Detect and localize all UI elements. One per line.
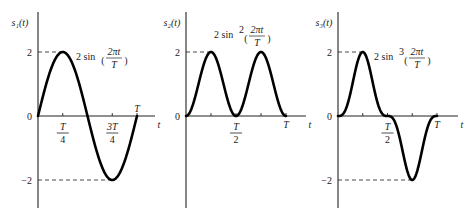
formula-annotation: 2 sin2(2πtT) bbox=[214, 24, 271, 48]
y-tick-label: 2 bbox=[27, 47, 32, 58]
x-tick-label: T bbox=[434, 119, 441, 130]
x-tick-label-numerator: 3T bbox=[106, 121, 119, 132]
formula-paren-right: ) bbox=[124, 55, 127, 67]
y-axis-label: s₂(t) bbox=[164, 17, 181, 29]
formula-paren-left: ( bbox=[244, 33, 248, 45]
y-tick-label: 0 bbox=[175, 111, 180, 122]
formula-paren-left: ( bbox=[404, 55, 408, 67]
formula-denominator: T bbox=[111, 59, 118, 70]
panel-s3: s₃(t)t20−2T2T2 sin3(2πtT) bbox=[316, 12, 464, 208]
x-axis-label: t bbox=[461, 119, 464, 130]
formula-numerator: 2πt bbox=[411, 46, 424, 57]
formula-annotation: 2 sin3(2πtT) bbox=[374, 46, 431, 70]
panel-s2: s₂(t)t20T2T2 sin2(2πtT) bbox=[164, 12, 312, 208]
formula-paren-right: ) bbox=[267, 33, 270, 45]
panel-s1: s₁(t)t20−2T43T4T2 sin(2πtT) bbox=[12, 12, 161, 208]
x-tick-label-denominator: 4 bbox=[110, 134, 115, 145]
x-tick-label: T bbox=[134, 103, 141, 114]
formula-annotation: 2 sin(2πtT) bbox=[76, 46, 128, 70]
x-tick-label-numerator: T bbox=[233, 121, 240, 132]
formula-numerator: 2πt bbox=[108, 46, 121, 57]
formula-paren-right: ) bbox=[427, 55, 430, 67]
x-tick-label-numerator: T bbox=[60, 121, 67, 132]
formula-power: 2 bbox=[239, 24, 244, 35]
formula-denominator: T bbox=[414, 59, 421, 70]
formula-prefix: 2 sin bbox=[374, 51, 393, 62]
series-line-s2 bbox=[186, 52, 286, 116]
formula-power: 3 bbox=[399, 46, 404, 57]
x-axis-label: t bbox=[309, 119, 312, 130]
y-tick-label: −2 bbox=[321, 175, 332, 186]
x-tick-label-numerator: T bbox=[385, 121, 392, 132]
waveform-charts: s₁(t)t20−2T43T4T2 sin(2πtT)s₂(t)t20T2T2 … bbox=[0, 0, 474, 218]
formula-prefix: 2 sin bbox=[76, 51, 95, 62]
formula-denominator: T bbox=[254, 37, 261, 48]
y-axis-label: s₃(t) bbox=[316, 17, 333, 29]
x-tick-label-denominator: 2 bbox=[234, 134, 239, 145]
formula-numerator: 2πt bbox=[251, 24, 264, 35]
y-tick-label: −2 bbox=[21, 175, 32, 186]
x-tick-label: T bbox=[283, 119, 290, 130]
x-tick-label-denominator: 4 bbox=[60, 134, 65, 145]
formula-prefix: 2 sin bbox=[214, 29, 233, 40]
y-tick-label: 2 bbox=[175, 47, 180, 58]
x-tick-label-denominator: 2 bbox=[385, 134, 390, 145]
y-axis-label: s₁(t) bbox=[12, 17, 29, 29]
x-axis-label: t bbox=[158, 119, 161, 130]
y-tick-label: 0 bbox=[327, 111, 332, 122]
formula-paren-left: ( bbox=[101, 55, 105, 67]
y-tick-label: 2 bbox=[327, 47, 332, 58]
y-tick-label: 0 bbox=[27, 111, 32, 122]
